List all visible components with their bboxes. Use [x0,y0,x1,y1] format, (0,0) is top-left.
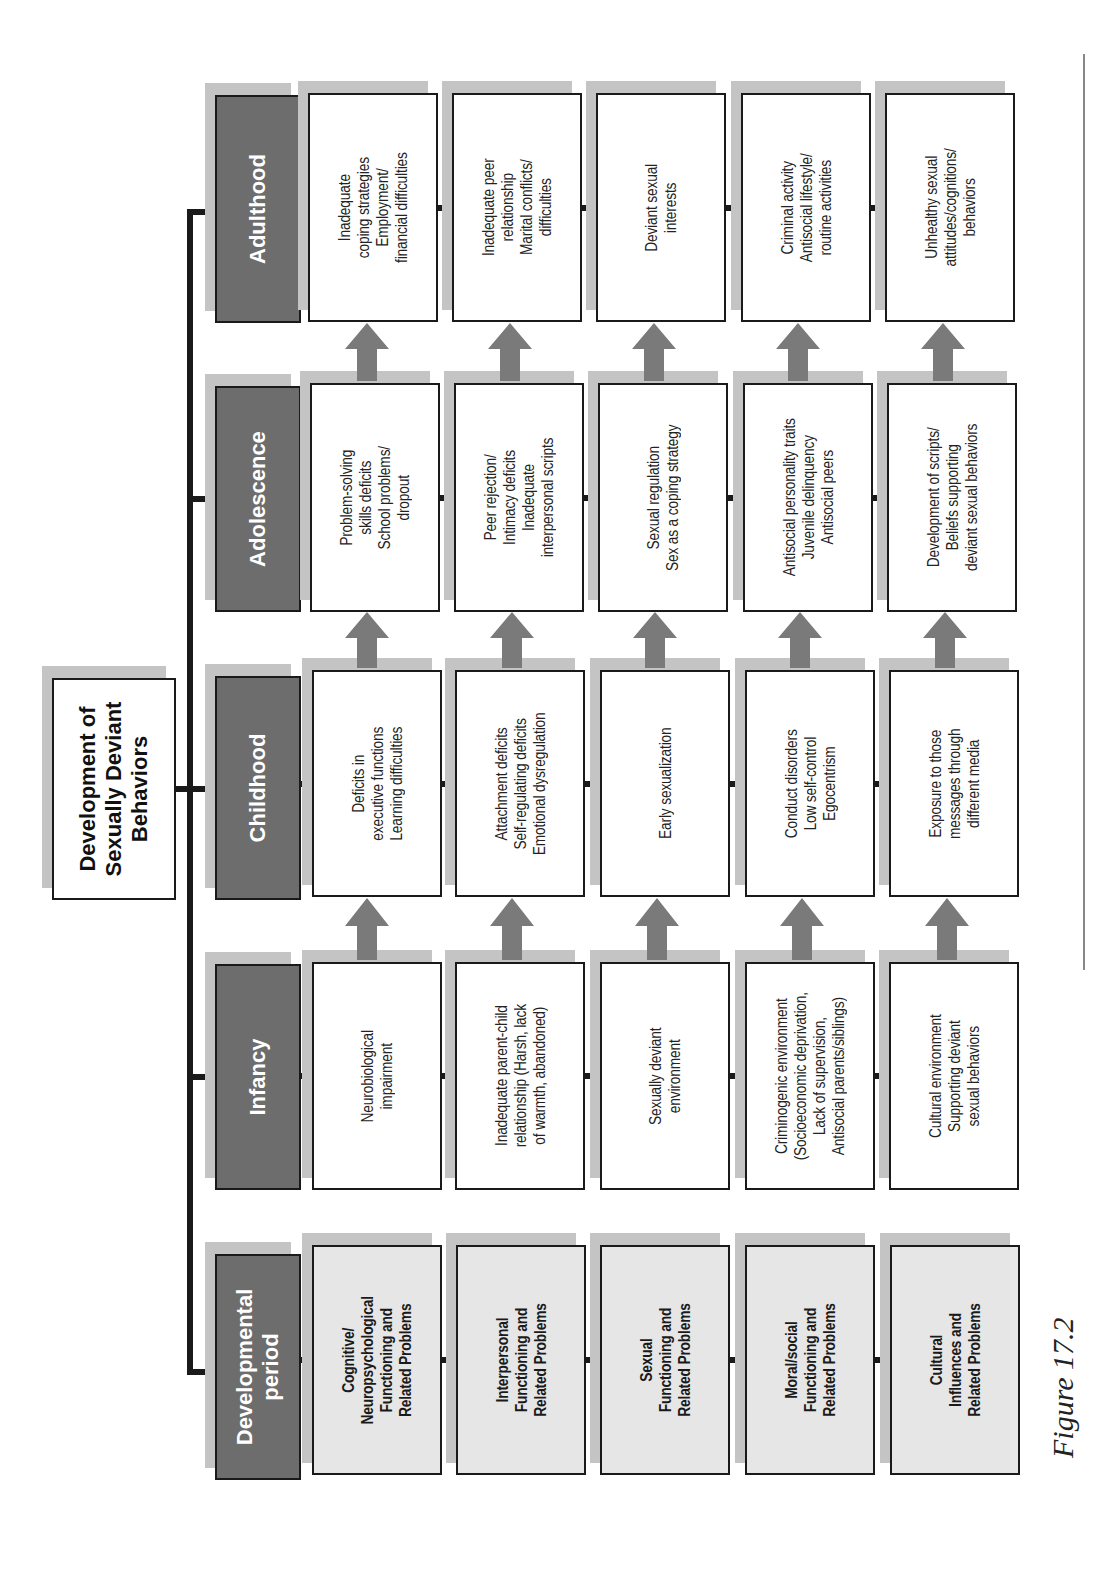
spine-drop-adulthood [187,209,217,215]
spine-drop-childhood [187,786,217,792]
cell-text: Cultural environment Supporting deviant … [926,1014,983,1138]
domain-label: Sexual Functioning and Related Problems [637,1303,694,1416]
cell-moral-infancy: Criminogenic environment (Socioeconomic … [745,962,875,1190]
cell-text: Sexual regulation Sex as a coping strate… [644,424,682,571]
header-label: Childhood [245,734,271,843]
arrow-right-icon [490,612,534,668]
cell-cultural-childhood: Exposure to those messages through diffe… [889,670,1019,897]
cell-cognitive-adolescence: Problem-solving skills deficits School p… [310,383,440,612]
domain-label: Cognitive/ Neuropsychological Functionin… [339,1296,415,1424]
cell-cognitive-childhood: Deficits in executive functions Learning… [312,670,442,897]
cell-sexual-adulthood: Deviant sexual interests [596,93,726,322]
cell-interpersonal-adulthood: Inadequate peer relationship Marital con… [452,93,582,322]
arrow-right-icon [345,612,389,668]
cell-moral-childhood: Conduct disorders Low self-control Egoce… [745,670,875,897]
cell-text: Criminal activity Antisocial lifestyle/ … [778,153,835,262]
domain-cognitive: Cognitive/ Neuropsychological Functionin… [312,1245,442,1475]
arrow-right-icon [776,323,820,381]
cell-text: Problem-solving skills deficits School p… [337,446,413,550]
cell-text: Antisocial personality traits Juvenile d… [780,419,837,577]
cell-text: Inadequate peer relationship Marital con… [479,159,555,257]
arrow-right-icon [921,323,965,381]
domain-cultural: Cultural Influences and Related Problems [890,1245,1020,1475]
header-infancy: Infancy [215,964,301,1190]
header-label: Adolescence [245,431,271,567]
diagram-title-text: Development of Sexually Deviant Behavior… [75,702,153,877]
figure-caption: Figure 17.2 [1046,1317,1080,1458]
cell-sexual-infancy: Sexually deviant environment [600,962,730,1190]
cell-text: Neurobiological impairment [358,1030,396,1122]
arrow-right-icon [923,612,967,668]
header-adulthood: Adulthood [215,95,301,323]
header-childhood: Childhood [215,676,301,900]
cell-text: Early sexualization [656,728,675,839]
cell-cultural-adulthood: Unhealthy sexual attitudes/cognitions/ b… [885,93,1015,322]
arrow-right-icon [633,612,677,668]
domain-label: Moral/social Functioning and Related Pro… [782,1303,839,1416]
header-label: Developmental period [232,1289,284,1446]
cell-interpersonal-adolescence: Peer rejection/ Intimacy deficits Inadeq… [454,383,584,612]
arrow-right-icon [780,898,824,960]
cell-sexual-childhood: Early sexualization [600,670,730,897]
domain-moral-social: Moral/social Functioning and Related Pro… [745,1245,875,1475]
cell-text: Sexually deviant environment [646,1027,684,1124]
cell-interpersonal-childhood: Attachment deficits Self-regulating defi… [455,670,585,897]
cell-text: Conduct disorders Low self-control Egoce… [782,729,839,838]
domain-label: Cultural Influences and Related Problems [927,1303,984,1416]
header-label: Infancy [245,1038,271,1115]
cell-text: Attachment deficits Self-regulating defi… [492,712,549,855]
cell-text: Inadequate parent-child relationship (Ha… [492,1004,549,1147]
spine-line [187,209,193,1375]
cell-text: Peer rejection/ Intimacy deficits Inadeq… [481,438,557,558]
spine-drop-adolescence [187,496,217,502]
arrow-right-icon [778,612,822,668]
figure-diagram: Development of Sexually Deviant Behavior… [0,0,1093,1574]
cell-moral-adulthood: Criminal activity Antisocial lifestyle/ … [741,93,871,322]
cell-text: Deficits in executive functions Learning… [349,727,406,841]
arrow-right-icon [490,898,534,960]
arrow-right-icon [345,898,389,960]
cell-moral-adolescence: Antisocial personality traits Juvenile d… [743,383,873,612]
domain-sexual: Sexual Functioning and Related Problems [600,1245,730,1475]
cell-text: Inadequate coping strategies Employment/… [335,152,411,263]
page-rule [1083,54,1085,970]
header-label: Adulthood [245,154,271,264]
cell-cognitive-infancy: Neurobiological impairment [312,962,442,1190]
cell-text: Exposure to those messages through diffe… [926,728,983,838]
cell-text: Criminogenic environment (Socioeconomic … [772,992,848,1160]
header-adolescence: Adolescence [215,386,301,612]
diagram-title: Development of Sexually Deviant Behavior… [52,678,176,900]
cell-sexual-adolescence: Sexual regulation Sex as a coping strate… [598,383,728,612]
cell-cultural-adolescence: Development of scripts/ Beliefs supporti… [887,383,1017,612]
cell-text: Development of scripts/ Beliefs supporti… [924,424,981,571]
domain-interpersonal: Interpersonal Functioning and Related Pr… [456,1245,586,1475]
cell-text: Deviant sexual interests [642,164,680,252]
cell-cognitive-adulthood: Inadequate coping strategies Employment/… [308,93,438,322]
arrow-right-icon [632,323,676,381]
arrow-right-icon [488,323,532,381]
spine-drop-developmental [187,1369,217,1375]
cell-cultural-infancy: Cultural environment Supporting deviant … [889,962,1019,1190]
spine-drop-infancy [187,1074,217,1080]
domain-label: Interpersonal Functioning and Related Pr… [493,1303,550,1416]
header-developmental-period: Developmental period [215,1254,301,1480]
cell-interpersonal-infancy: Inadequate parent-child relationship (Ha… [455,962,585,1190]
arrow-right-icon [345,323,389,381]
cell-text: Unhealthy sexual attitudes/cognitions/ b… [922,148,979,266]
arrow-right-icon [925,898,969,960]
arrow-right-icon [635,898,679,960]
